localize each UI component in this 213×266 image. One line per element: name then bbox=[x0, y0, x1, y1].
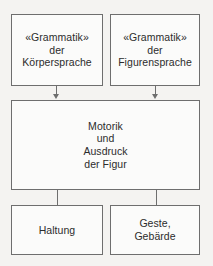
arrow-down-icon-koerpersprache bbox=[53, 94, 59, 99]
node-motorik-line-1: Motorik bbox=[88, 120, 123, 133]
node-koerpersprache-line-1: «Grammatik» bbox=[25, 31, 89, 44]
node-koerpersprache-line-3: Körpersprache bbox=[22, 56, 92, 69]
node-geste-line-2: Gebärde bbox=[134, 230, 175, 243]
node-haltung-line-1: Haltung bbox=[39, 224, 76, 237]
node-haltung[interactable]: Haltung bbox=[11, 205, 103, 255]
node-motorik-line-2: und bbox=[97, 132, 115, 145]
node-figurensprache-line-1: «Grammatik» bbox=[123, 31, 187, 44]
node-motorik-ausdruck[interactable]: Motorik und Ausdruck der Figur bbox=[11, 100, 200, 190]
flowchart-diagram: «Grammatik» der Körpersprache «Grammatik… bbox=[0, 0, 213, 266]
node-motorik-line-4: der Figur bbox=[84, 158, 126, 171]
node-koerpersprache[interactable]: «Grammatik» der Körpersprache bbox=[11, 14, 103, 86]
node-koerpersprache-line-2: der bbox=[49, 44, 64, 57]
node-motorik-line-3: Ausdruck bbox=[83, 145, 127, 158]
node-figurensprache-line-3: Figurensprache bbox=[118, 56, 192, 69]
node-figurensprache-line-2: der bbox=[147, 44, 162, 57]
connector-motorik-to-haltung bbox=[57, 190, 58, 205]
connector-motorik-to-geste bbox=[156, 190, 157, 205]
node-geste-gebaerde[interactable]: Geste, Gebärde bbox=[110, 205, 200, 255]
node-figurensprache[interactable]: «Grammatik» der Figurensprache bbox=[110, 14, 200, 86]
node-geste-line-1: Geste, bbox=[139, 217, 170, 230]
arrow-down-icon-figurensprache bbox=[152, 94, 158, 99]
